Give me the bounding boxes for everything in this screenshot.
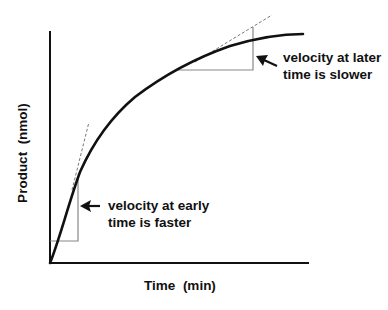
early-annotation-line1: velocity at early	[108, 197, 209, 214]
x-axis-label: Time (min)	[130, 278, 230, 293]
early-annotation: velocity at early time is faster	[108, 197, 209, 231]
y-axis-label: Product (nmol)	[15, 103, 30, 203]
early-annotation-line2: time is faster	[108, 214, 209, 231]
later-annotation: velocity at later time is slower	[283, 49, 381, 83]
later-arrow-icon	[256, 55, 277, 66]
chart-canvas	[0, 0, 388, 310]
later-annotation-line2: time is slower	[283, 66, 381, 83]
later-annotation-line1: velocity at later	[283, 49, 381, 66]
early-arrow-icon	[80, 200, 100, 212]
